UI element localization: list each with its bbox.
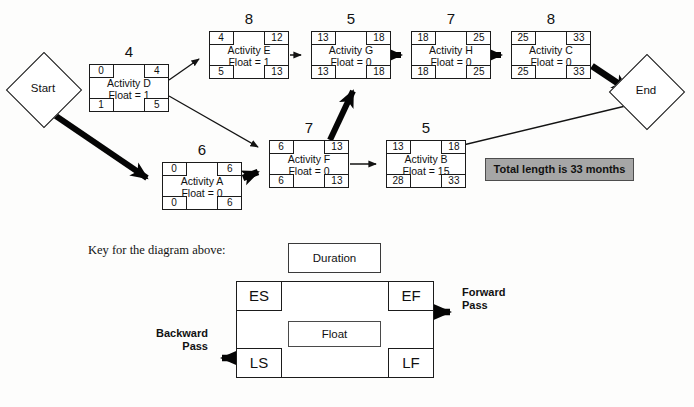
- activity-name-g: Activity G: [312, 45, 390, 57]
- duration-label-c: 8: [511, 10, 591, 27]
- lf-cell-b: 33: [441, 174, 466, 188]
- lf-cell-g: 18: [366, 65, 391, 79]
- backward-pass-label: Backward Pass: [98, 327, 208, 353]
- key-ls-cell: LS: [236, 348, 282, 378]
- activity-name-c: Activity C: [512, 45, 590, 57]
- activity-label-a: Activity A Float = 0: [163, 176, 241, 198]
- key-float-box: Float: [288, 321, 381, 347]
- key-ef-cell: EF: [388, 281, 434, 311]
- duration-label-d: 4: [89, 43, 169, 60]
- end-node-label: End: [609, 84, 683, 96]
- forward-pass-label: Forward Pass: [462, 286, 505, 312]
- es-cell-h: 18: [411, 31, 436, 45]
- duration-label-b: 5: [386, 119, 466, 136]
- total-length-badge: Total length is 33 months: [485, 158, 634, 181]
- ls-cell-e: 5: [209, 65, 234, 79]
- key-lf-cell: LF: [388, 348, 434, 378]
- duration-label-a: 6: [162, 141, 242, 158]
- ls-cell-h: 18: [411, 65, 436, 79]
- ef-cell-a: 6: [217, 162, 242, 176]
- activity-label-c: Activity C Float = 0: [512, 45, 590, 67]
- lf-cell-e: 13: [264, 65, 289, 79]
- key-duration-box: Duration: [288, 243, 381, 273]
- es-cell-g: 13: [311, 31, 336, 45]
- activity-node-a[interactable]: 0 6 Activity A Float = 0 0 6: [162, 162, 242, 210]
- ls-cell-a: 0: [162, 196, 187, 210]
- lf-cell-d: 5: [144, 98, 169, 112]
- network-diagram-canvas: Start End 4 0 4 Activity D Float = 1 1 5…: [0, 0, 694, 407]
- es-cell-c: 25: [511, 31, 536, 45]
- ef-cell-d: 4: [144, 64, 169, 78]
- ls-cell-d: 1: [89, 98, 114, 112]
- activity-node-g[interactable]: 13 18 Activity G Float = 0 13 18: [311, 31, 391, 79]
- activity-name-e: Activity E: [210, 45, 288, 57]
- es-cell-b: 13: [386, 140, 411, 154]
- es-cell-d: 0: [89, 64, 114, 78]
- ef-cell-f: 13: [324, 140, 349, 154]
- activity-node-c[interactable]: 25 33 Activity C Float = 0 25 33: [511, 31, 591, 79]
- edge-d-to-f: [169, 96, 258, 147]
- activity-label-d: Activity D Float = 1: [90, 78, 168, 100]
- lf-cell-f: 13: [324, 174, 349, 188]
- ef-cell-h: 25: [466, 31, 491, 45]
- ls-cell-b: 28: [386, 174, 411, 188]
- activity-node-b[interactable]: 13 18 Activity B Float = 15 28 33: [386, 140, 466, 188]
- ls-cell-g: 13: [311, 65, 336, 79]
- activity-label-h: Activity H Float = 0: [412, 45, 490, 67]
- edge-a-to-f: [243, 172, 258, 178]
- activity-name-a: Activity A: [163, 176, 241, 188]
- forward-pass-line1: Forward: [462, 286, 505, 298]
- activity-name-d: Activity D: [90, 78, 168, 90]
- activity-name-h: Activity H: [412, 45, 490, 57]
- activity-label-e: Activity E Float = 1: [210, 45, 288, 67]
- backward-pass-line1: Backward: [156, 327, 208, 339]
- activity-label-b: Activity B Float = 15: [387, 154, 465, 176]
- key-caption: Key for the diagram above:: [88, 243, 225, 258]
- activity-name-f: Activity F: [270, 154, 348, 166]
- lf-cell-c: 33: [566, 65, 591, 79]
- activity-node-d[interactable]: 0 4 Activity D Float = 1 1 5: [89, 64, 169, 112]
- activity-name-b: Activity B: [387, 154, 465, 166]
- ef-cell-e: 12: [264, 31, 289, 45]
- key-es-cell: ES: [236, 281, 282, 311]
- activity-node-e[interactable]: 4 12 Activity E Float = 1 5 13: [209, 31, 289, 79]
- edge-start-to-a: [50, 112, 147, 178]
- duration-label-g: 5: [311, 10, 391, 27]
- lf-cell-a: 6: [217, 196, 242, 210]
- duration-label-e: 8: [209, 10, 289, 27]
- backward-pass-line2: Pass: [182, 340, 208, 352]
- activity-node-f[interactable]: 6 13 Activity F Float = 0 6 13: [269, 140, 349, 188]
- es-cell-f: 6: [269, 140, 294, 154]
- duration-label-h: 7: [411, 10, 491, 27]
- lf-cell-h: 25: [466, 65, 491, 79]
- forward-pass-line2: Pass: [462, 299, 488, 311]
- ls-cell-f: 6: [269, 174, 294, 188]
- es-cell-a: 0: [162, 162, 187, 176]
- es-cell-e: 4: [209, 31, 234, 45]
- ls-cell-c: 25: [511, 65, 536, 79]
- duration-label-f: 7: [269, 119, 349, 136]
- activity-node-h[interactable]: 18 25 Activity H Float = 0 18 25: [411, 31, 491, 79]
- activity-label-g: Activity G Float = 0: [312, 45, 390, 67]
- ef-cell-c: 33: [566, 31, 591, 45]
- ef-cell-g: 18: [366, 31, 391, 45]
- start-node-label: Start: [6, 82, 80, 94]
- edge-b-to-end: [459, 103, 638, 146]
- ef-cell-b: 18: [441, 140, 466, 154]
- activity-label-f: Activity F Float = 0: [270, 154, 348, 176]
- edge-d-to-e: [169, 59, 199, 80]
